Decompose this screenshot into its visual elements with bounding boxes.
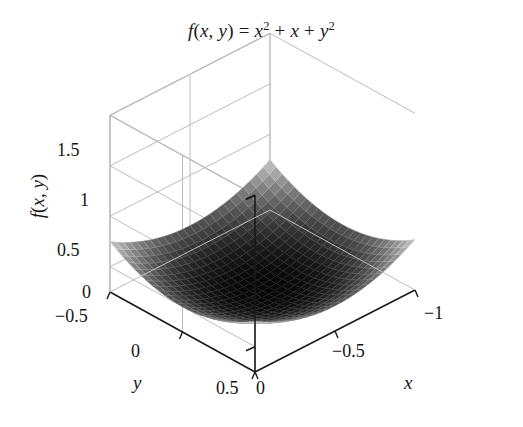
z-label-x: x (27, 198, 48, 206)
z-axis-label: f(x, y) (27, 174, 49, 218)
z-tick-label-0: 0 (82, 282, 91, 303)
z-label-y: y (27, 180, 48, 188)
y-tick-1 (180, 332, 183, 339)
x-tick-1 (335, 331, 338, 338)
title-term3-base: y (320, 20, 329, 41)
title-arg-y: y (219, 20, 228, 41)
x-axis-label: x (404, 372, 412, 394)
surface-plot-figure: f(x, y) = x2 + x + y2 1.5 1 0.5 0 −0.5 0… (0, 0, 523, 427)
z-label-f: f (27, 213, 48, 218)
z-label-paren-close: ) (27, 174, 48, 180)
z-tick-label-1: 1 (80, 190, 89, 211)
x-tick-label--1: −1 (424, 303, 443, 324)
z-label-comma: , (27, 189, 48, 199)
y-tick-0 (107, 292, 110, 299)
z-label-paren-open: ( (27, 207, 48, 213)
z-tick-label-0.5: 0.5 (57, 240, 80, 261)
y-tick-label-0: 0 (131, 341, 140, 362)
y-tick-label--0.5: −0.5 (55, 306, 88, 327)
title-term1-base: x (255, 20, 264, 41)
title-arg-x: x (200, 20, 209, 41)
title-comma: , (209, 20, 219, 41)
x-tick-label-0: 0 (256, 378, 265, 399)
surface-plot-canvas (0, 0, 523, 427)
box-top-edge-far-right (270, 33, 415, 113)
x-tick-2 (415, 290, 418, 297)
title-equals: = (234, 20, 255, 41)
title-plus-1: + (270, 20, 291, 41)
y-tick-2 (252, 372, 255, 379)
surface-mesh (110, 160, 415, 324)
z-tick-0 (246, 347, 255, 351)
plot-title: f(x, y) = x2 + x + y2 (0, 20, 523, 42)
y-axis-label: y (133, 372, 141, 394)
x-tick-label--0.5: −0.5 (332, 341, 365, 362)
title-term3-exponent: 2 (329, 19, 335, 33)
y-tick-label-0.5: 0.5 (216, 378, 239, 399)
z-tick-label-1.5: 1.5 (57, 140, 80, 161)
title-term2: x (290, 20, 299, 41)
title-plus-2: + (299, 20, 320, 41)
